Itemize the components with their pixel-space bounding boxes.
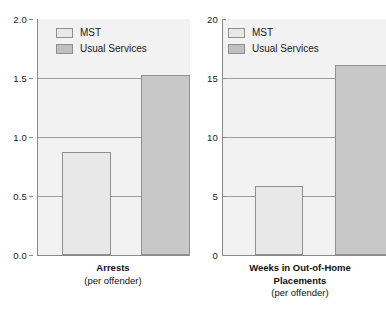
legend-label-usual-services: Usual Services <box>80 44 147 54</box>
legend-swatch-usual-services-icon <box>228 44 245 54</box>
y-tick-mark <box>222 19 226 20</box>
y-tick-label: 0.5 <box>13 191 27 202</box>
legend-label-mst: MST <box>80 28 101 38</box>
legend-arrests: MST Usual Services <box>56 26 147 58</box>
y-tick-label: 2.0 <box>13 14 27 25</box>
y-tick-mark <box>29 196 33 197</box>
x-axis-label-line: Placements <box>215 275 385 288</box>
chart-arrests: 2.0 1.5 1.0 0.5 0.0 MST <box>0 0 190 311</box>
y-tick-mark <box>29 137 33 138</box>
y-tick-label: 10 <box>207 132 218 143</box>
legend-swatch-usual-services-icon <box>56 44 73 54</box>
y-tick-mark <box>29 255 33 256</box>
y-tick-label: 15 <box>207 73 218 84</box>
y-tick-label: 1.0 <box>13 132 27 143</box>
y-tick-mark <box>222 196 226 197</box>
x-axis-label-line: Arrests <box>37 262 189 275</box>
legend-item-usual-services: Usual Services <box>228 42 319 56</box>
y-tick-mark <box>222 137 226 138</box>
x-axis-label-arrests: Arrests (per offender) <box>37 262 189 287</box>
y-tick-mark <box>29 19 33 20</box>
x-axis-label-line: Weeks in Out-of-Home <box>215 262 385 275</box>
bar-usual-services-arrests <box>141 75 190 255</box>
legend-item-mst: MST <box>228 26 319 40</box>
legend-label-mst: MST <box>252 28 273 38</box>
y-tick-label: 1.5 <box>13 73 27 84</box>
y-tick-label: 0 <box>213 250 218 261</box>
x-axis-label-line: (per offender) <box>215 287 385 300</box>
y-tick-mark <box>29 78 33 79</box>
legend-placements: MST Usual Services <box>228 26 319 58</box>
y-tick-label: 5 <box>213 191 218 202</box>
y-tick-label: 20 <box>207 14 218 25</box>
bar-mst-arrests <box>62 152 111 255</box>
y-axis-left: 2.0 1.5 1.0 0.5 0.0 <box>0 0 33 256</box>
y-tick-mark <box>222 255 226 256</box>
legend-swatch-mst-icon <box>228 28 245 38</box>
x-axis-label-placements: Weeks in Out-of-Home Placements (per off… <box>215 262 385 300</box>
legend-item-usual-services: Usual Services <box>56 42 147 56</box>
y-axis-right: 20 15 10 5 0 <box>190 0 226 256</box>
y-tick-label: 0.0 <box>13 250 27 261</box>
bar-mst-placements <box>255 186 303 255</box>
legend-item-mst: MST <box>56 26 147 40</box>
x-axis-label-line: (per offender) <box>37 275 189 288</box>
legend-swatch-mst-icon <box>56 28 73 38</box>
legend-label-usual-services: Usual Services <box>252 44 319 54</box>
bar-usual-services-placements <box>335 65 386 255</box>
y-tick-mark <box>222 78 226 79</box>
